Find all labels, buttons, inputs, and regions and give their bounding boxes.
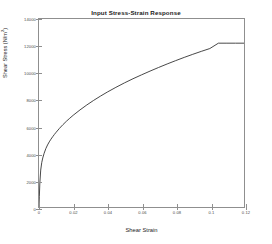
x-tick-mark-inner: [74, 204, 75, 207]
y-tick-label: 12000: [24, 44, 36, 49]
x-tick-mark-inner: [39, 204, 40, 207]
x-tick-label: 0.12: [242, 210, 250, 215]
figure-canvas: Input Stress-Strain Response 02000400060…: [0, 0, 272, 244]
x-tick-mark-inner: [108, 204, 109, 207]
y-tick-mark-inner: [39, 46, 42, 47]
y-tick-label: 2000: [26, 179, 36, 184]
x-tick-label: 0.04: [104, 210, 112, 215]
y-tick-mark-inner: [39, 73, 42, 74]
x-tick-mark-inner: [246, 204, 247, 207]
y-tick-mark-inner: [39, 155, 42, 156]
y-tick-mark-inner: [39, 19, 42, 20]
y-tick-label: 0: [34, 207, 36, 212]
x-tick-mark-inner: [177, 204, 178, 207]
y-axis-label-text: Shear Stress (N/m: [2, 32, 8, 78]
x-tick-mark-inner: [212, 204, 213, 207]
x-tick-label: 0.1: [209, 210, 215, 215]
y-tick-label: 8000: [26, 98, 36, 103]
y-tick-mark-inner: [39, 182, 42, 183]
x-tick-label: 0.06: [138, 210, 146, 215]
y-tick-mark-inner: [39, 128, 42, 129]
plot-inner: [39, 19, 244, 207]
y-tick-mark-inner: [39, 100, 42, 101]
y-tick-label: 4000: [26, 152, 36, 157]
y-axis-label-tail: ): [2, 28, 8, 30]
x-axis-label: Shear Strain: [38, 227, 245, 233]
stress-strain-curve: [39, 19, 244, 207]
y-tick-label: 14000: [24, 17, 36, 22]
chart-title: Input Stress-Strain Response: [0, 9, 272, 16]
plot-area: 02000400060008000100001200014000 00.020.…: [38, 18, 245, 208]
y-axis-label-exponent: 2: [0, 30, 5, 32]
y-tick-label: 10000: [24, 71, 36, 76]
x-tick-label: 0.02: [69, 210, 77, 215]
x-tick-label: 0.08: [173, 210, 181, 215]
x-tick-label: 0: [38, 210, 40, 215]
x-tick-mark-inner: [143, 204, 144, 207]
y-tick-label: 6000: [26, 125, 36, 130]
y-axis-label: Shear Stress (N/m2): [0, 0, 8, 113]
